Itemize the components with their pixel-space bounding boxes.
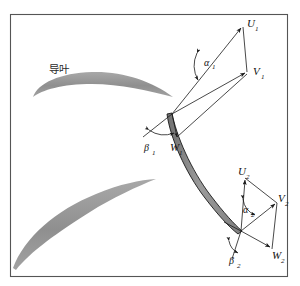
beta2-label-sub: 2 (237, 262, 241, 270)
beta2-label-base: β (228, 255, 234, 266)
page-background (0, 0, 300, 286)
alpha1-label-base: α (204, 57, 210, 68)
u2-label-sub: 2 (246, 173, 250, 181)
w2-label-sub: 2 (281, 257, 285, 265)
velocity-triangle-diagram: U 1 V 1 W 1 α 1 β 1 (0, 0, 300, 286)
alpha2-label-sub: 2 (251, 211, 255, 219)
alpha1-label-sub: 1 (212, 63, 216, 71)
beta1-label-base: β (143, 142, 149, 153)
v1-label-sub: 1 (261, 73, 265, 81)
v2-label-sub: 2 (285, 200, 289, 208)
alpha2-label-base: α (243, 204, 249, 215)
u1-label-sub: 1 (255, 25, 259, 33)
w1-label-sub: 1 (179, 149, 183, 157)
guide-vane-label: 导叶 (49, 63, 70, 75)
figure-root: U 1 V 1 W 1 α 1 β 1 (0, 0, 300, 286)
beta1-label-sub: 1 (152, 149, 156, 157)
